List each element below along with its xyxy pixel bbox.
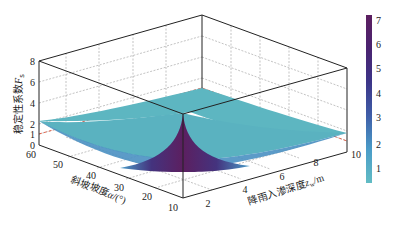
alpha-tick-60: 60 (26, 149, 36, 160)
colorbar-tick-7: 7 (376, 15, 381, 26)
alpha-tick-20: 20 (142, 191, 152, 202)
colorbar-tick-4: 4 (376, 88, 381, 99)
alpha-tick-50: 50 (53, 159, 63, 170)
z-tick-8: 8 (30, 56, 35, 67)
colorbar-tick-2: 2 (376, 139, 381, 150)
z-tick-1: 1 (30, 129, 35, 140)
colorbar-tick-5: 5 (376, 63, 381, 74)
z-axis-label: 稳定性系数Fs (12, 74, 26, 134)
surface-chart: 8 6 4 2 1 0 稳定性系数Fs 60 50 40 30 20 10 斜坡… (0, 0, 395, 225)
depth-tick-4: 4 (243, 184, 248, 195)
depth-tick-2: 2 (206, 198, 211, 209)
colorbar-tick-3: 3 (376, 112, 381, 123)
colorbar-tick-1: 1 (376, 163, 381, 174)
depth-tick-10: 10 (351, 149, 361, 160)
z-tick-6: 6 (30, 77, 35, 88)
fs-surface (39, 88, 347, 172)
depth-tick-6: 6 (280, 171, 285, 182)
z-axis-ticks: 8 6 4 2 1 0 (30, 56, 35, 151)
z-tick-4: 4 (30, 98, 35, 109)
colorbar-tick-6: 6 (376, 39, 381, 50)
alpha-tick-10: 10 (168, 202, 178, 213)
colorbar-gradient (366, 15, 372, 183)
colorbar: 7 6 5 4 3 2 1 (366, 15, 381, 183)
depth-tick-8: 8 (314, 157, 319, 168)
